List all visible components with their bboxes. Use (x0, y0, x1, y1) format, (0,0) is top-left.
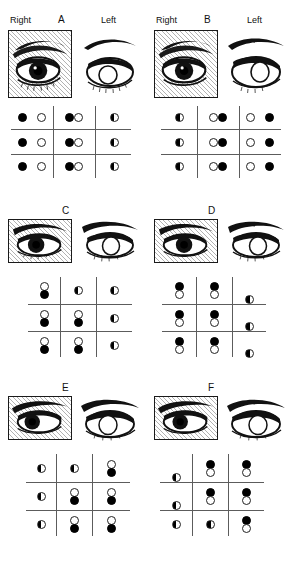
filled-circle-icon (70, 524, 79, 533)
half-filled-circle-icon (206, 520, 215, 529)
half-filled-circle-icon (110, 341, 119, 350)
open-circle-icon (206, 496, 215, 505)
panel-d-grid (160, 275, 280, 359)
panel-b-left-label: Left (247, 15, 262, 26)
half-filled-circle-icon (110, 314, 119, 323)
panel-d-eye-images (146, 219, 292, 275)
half-filled-circle-icon (175, 113, 184, 122)
panel-b-cell-r0c2 (239, 106, 281, 129)
filled-circle-icon (218, 113, 227, 122)
panel-a-cell-r2c0 (11, 155, 53, 178)
panel-a-cell-r2c1 (53, 155, 95, 178)
panel-a-cell-r2c2 (95, 155, 133, 178)
panel-f-cell-r0c1 (192, 454, 228, 482)
panel-e-cell-r1c2 (92, 483, 130, 510)
panel-a: Right A Left (0, 14, 146, 194)
half-filled-circle-icon (70, 464, 79, 473)
panel-e-cell-r2c0 (26, 511, 56, 537)
panel-a-cell-r1c2 (95, 130, 133, 154)
filled-circle-icon (65, 162, 74, 171)
vertical-dot-pair (74, 310, 83, 327)
panel-f-cell-r0c0 (160, 454, 192, 482)
half-filled-circle-icon (110, 113, 119, 122)
open-circle-icon (210, 345, 219, 354)
panel-f-right-eye-image (154, 396, 218, 440)
panel-a-cell-r0c1 (53, 106, 95, 129)
vertical-dot-pair (74, 337, 83, 354)
panel-e-eye-images (0, 396, 146, 452)
half-filled-circle-icon (245, 349, 254, 358)
panel-f-header: F (146, 382, 292, 396)
open-circle-icon (209, 113, 218, 122)
panel-f-cell-r1c0 (160, 483, 192, 510)
half-filled-circle-icon (74, 286, 83, 295)
panel-c-cell-r0c1 (60, 277, 96, 304)
panel-e-cell-r0c1 (56, 454, 92, 482)
open-circle-icon (246, 138, 255, 147)
panel-e-cell-r0c2 (92, 454, 130, 482)
panel-e-cell-r0c0 (26, 454, 56, 482)
panel-b-cell-r2c1 (197, 155, 239, 178)
panel-e-cell-r2c2 (92, 511, 130, 537)
filled-circle-icon (40, 345, 49, 354)
panel-b-cell-r1c1 (197, 130, 239, 154)
vertical-dot-pair (107, 460, 116, 477)
panel-d-cell-r2c1 (196, 332, 232, 358)
filled-circle-icon (65, 113, 74, 122)
vertical-dot-pair (206, 460, 215, 477)
panel-b-right-label: Right (156, 15, 177, 26)
half-filled-circle-icon (37, 520, 46, 529)
panel-c-id: C (62, 205, 69, 216)
panel-c-cell-r2c0 (28, 332, 60, 358)
filled-circle-icon (74, 318, 83, 327)
panel-d-right-eye-image (154, 219, 218, 263)
panel-f-eye-images (146, 396, 292, 452)
open-circle-icon (242, 496, 251, 505)
half-filled-circle-icon (172, 501, 181, 510)
filled-circle-icon (218, 138, 227, 147)
half-filled-circle-icon (172, 473, 181, 482)
panel-b-cell-r0c0 (161, 106, 197, 129)
panel-c-header: C (0, 205, 146, 219)
vertical-dot-pair (210, 337, 219, 354)
panel-b: Right B Left (146, 14, 292, 194)
half-filled-circle-icon (175, 138, 184, 147)
open-circle-icon (175, 290, 184, 299)
vertical-dot-pair (206, 488, 215, 505)
panel-d-header: D (146, 205, 292, 219)
open-circle-icon (74, 113, 83, 122)
panel-b-header: Right B Left (146, 14, 292, 30)
panel-a-id: A (58, 14, 65, 25)
panel-a-cell-r1c1 (53, 130, 95, 154)
panel-e-left-eye-image (78, 396, 142, 444)
panel-e-right-eye-image (8, 396, 72, 440)
half-filled-circle-icon (110, 162, 119, 171)
open-circle-icon (74, 138, 83, 147)
filled-circle-icon (107, 496, 116, 505)
panel-c-cell-r1c0 (28, 305, 60, 331)
panel-b-cell-r0c1 (197, 106, 239, 129)
panel-e-cell-r1c0 (26, 483, 56, 510)
open-circle-icon (206, 468, 215, 477)
panel-f: F (146, 382, 292, 562)
panel-d-cell-r1c2 (232, 305, 266, 331)
half-filled-circle-icon (175, 162, 184, 171)
panel-e-header: E (0, 382, 146, 396)
panel-a-right-label: Right (10, 15, 31, 26)
open-circle-icon (242, 524, 251, 533)
filled-circle-icon (40, 318, 49, 327)
half-filled-circle-icon (110, 286, 119, 295)
open-circle-icon (246, 162, 255, 171)
open-circle-icon (74, 162, 83, 171)
panel-c-cell-r0c2 (96, 277, 132, 304)
filled-circle-icon (107, 468, 116, 477)
panel-f-cell-r2c2 (228, 511, 264, 537)
filled-circle-icon (65, 138, 74, 147)
panel-c-left-eye-image (78, 219, 142, 265)
filled-circle-icon (18, 138, 27, 147)
open-circle-icon (246, 113, 255, 122)
filled-circle-icon (265, 138, 274, 147)
panel-e-id: E (62, 382, 69, 393)
vertical-dot-pair (210, 310, 219, 327)
panel-f-cell-r0c2 (228, 454, 264, 482)
